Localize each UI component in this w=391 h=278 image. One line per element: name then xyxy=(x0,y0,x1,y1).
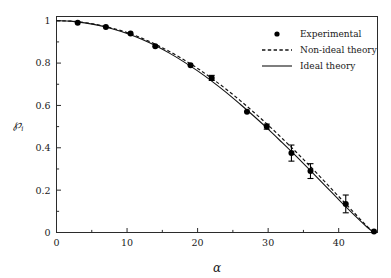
data-point xyxy=(152,43,158,49)
y-tick-label: 0.8 xyxy=(35,57,50,68)
x-tick-label: 20 xyxy=(192,237,204,248)
data-point xyxy=(188,62,194,68)
y-tick-label: 0.4 xyxy=(35,142,50,153)
data-point xyxy=(103,24,109,30)
x-tick-label: 40 xyxy=(333,237,345,248)
y-tick-label: 0 xyxy=(44,227,50,238)
legend-marker-experimental xyxy=(274,31,279,36)
x-tick-label: 30 xyxy=(262,237,274,248)
legend-label: Ideal theory xyxy=(300,61,356,71)
data-point xyxy=(209,75,215,81)
data-point xyxy=(75,20,81,26)
x-tick-label: 10 xyxy=(121,237,133,248)
figure-container: 010203040 00.20.40.60.81 α ℘i Experiment… xyxy=(0,0,391,278)
legend-label: Non-ideal theory xyxy=(300,45,378,55)
data-point xyxy=(128,30,134,36)
x-tick-label: 0 xyxy=(53,237,59,248)
data-point xyxy=(307,168,313,174)
data-point xyxy=(244,109,250,115)
legend-label: Experimental xyxy=(300,29,362,39)
data-point xyxy=(264,124,270,130)
x-axis-label: α xyxy=(213,261,221,275)
data-point xyxy=(371,228,377,234)
data-point xyxy=(343,201,349,207)
y-tick-label: 0.6 xyxy=(35,100,50,111)
y-tick-label: 0.2 xyxy=(35,185,50,196)
data-point xyxy=(288,150,294,156)
y-tick-label: 1 xyxy=(44,15,50,26)
scatter-plot: 010203040 00.20.40.60.81 α ℘i Experiment… xyxy=(0,0,391,278)
